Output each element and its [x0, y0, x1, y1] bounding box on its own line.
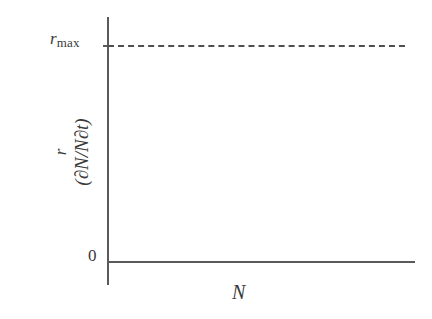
y-axis-tick-label-zero: 0: [88, 247, 97, 264]
y-axis-title-symbol: r: [51, 118, 71, 185]
rmax-symbol: r: [50, 29, 57, 48]
chart-figure: rmax 0 r (∂N/N∂t) N: [0, 0, 432, 319]
rmax-dashed-series-line: [108, 45, 405, 47]
x-axis-line: [107, 261, 415, 263]
x-axis-title: N: [232, 282, 245, 302]
y-axis-line: [107, 17, 109, 285]
y-axis-title-expression: (∂N/N∂t): [71, 118, 93, 185]
y-axis-tick-label-rmax: rmax: [50, 30, 80, 47]
rmax-subscript: max: [57, 35, 80, 50]
y-axis-title-rotated-group: r (∂N/N∂t): [51, 118, 93, 185]
